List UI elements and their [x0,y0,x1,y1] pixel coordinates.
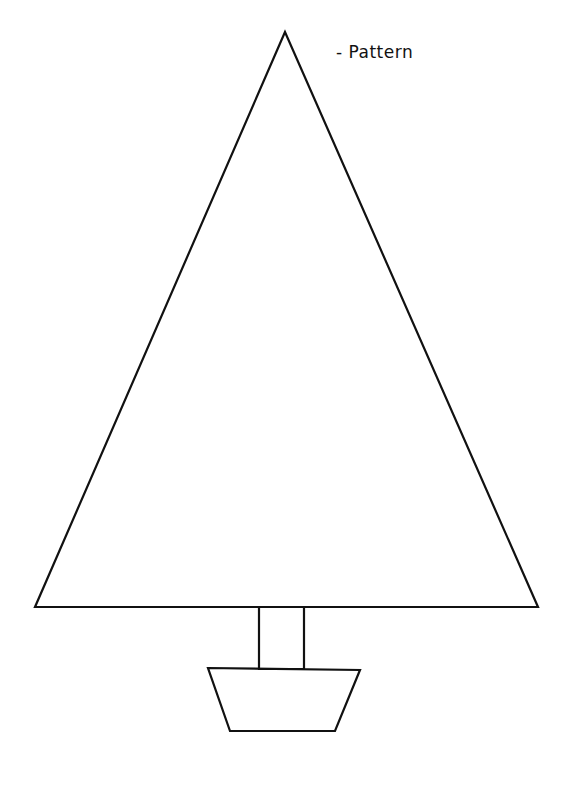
tree-pot [208,668,360,731]
pattern-page: - Pattern [0,0,570,787]
tree-canopy-triangle [35,32,538,607]
tree-drawing [0,0,570,787]
pattern-label: - Pattern [336,42,413,62]
tree-trunk [259,607,304,669]
